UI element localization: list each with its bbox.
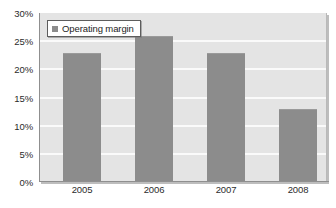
y-axis-line — [39, 13, 40, 182]
y-axis-tick-label: 15% — [14, 92, 33, 103]
y-axis: 30% 25% 20% 15% 10% 5% 0% — [0, 0, 36, 208]
bar-2007 — [207, 53, 245, 183]
x-axis-tick-label-2007: 2007 — [216, 184, 237, 195]
y-axis-tick-label: 20% — [14, 64, 33, 75]
y-axis-tick-label: 10% — [14, 120, 33, 131]
y-axis-tick-label: 0% — [19, 177, 33, 188]
plot-area — [39, 13, 327, 182]
operating-margin-bar-chart: 30% 25% 20% 15% 10% 5% 0% 2005 2006 2007… — [0, 0, 336, 208]
x-axis-tick-label-2008: 2008 — [288, 184, 309, 195]
legend-item-label: Operating margin — [62, 23, 134, 34]
bar-2005 — [63, 53, 101, 183]
y-axis-tick-label: 25% — [14, 36, 33, 47]
bar-2006 — [135, 36, 173, 183]
x-axis-tick-label-2005: 2005 — [72, 184, 93, 195]
bar-2008 — [279, 109, 317, 182]
square-marker-icon — [52, 26, 58, 32]
x-axis-tick-label-2006: 2006 — [144, 184, 165, 195]
y-axis-tick-label: 30% — [14, 8, 33, 19]
x-axis: 2005 2006 2007 2008 — [39, 184, 327, 206]
chart-legend: Operating margin — [47, 20, 141, 37]
y-axis-tick-label: 5% — [19, 148, 33, 159]
x-axis-line — [39, 181, 329, 182]
bars-layer — [39, 13, 326, 182]
